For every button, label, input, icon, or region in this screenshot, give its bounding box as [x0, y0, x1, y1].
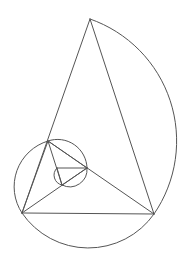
- spiral-arc: [90, 19, 177, 214]
- triangle-edge: [90, 19, 154, 214]
- spiral-arc: [22, 213, 154, 248]
- spiral-arc: [14, 141, 48, 213]
- triangle-edge: [22, 213, 154, 214]
- spiral-diagram: [0, 0, 195, 262]
- triangle-edge: [62, 168, 87, 185]
- triangle-edge: [48, 141, 87, 168]
- triangle-edges: [22, 19, 154, 214]
- triangle-edge: [22, 141, 48, 213]
